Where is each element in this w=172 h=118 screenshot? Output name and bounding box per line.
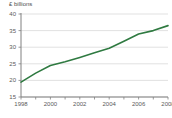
x-tick-label: 2000 (39, 101, 61, 107)
x-tick-label: 2004 (98, 101, 120, 107)
y-tick-label: 35 (2, 28, 16, 34)
y-tick-label: 15 (2, 94, 16, 100)
y-tick-label: 25 (2, 61, 16, 67)
x-tick-label: 2002 (69, 101, 91, 107)
x-tick-label: 2006 (128, 101, 150, 107)
x-tick-label: 2008 (157, 101, 172, 107)
line-chart: £ billions 403530252015 1998200020022004… (0, 0, 172, 118)
x-tick-label: 1998 (10, 101, 32, 107)
gridlines (21, 14, 168, 97)
y-tick-label: 20 (2, 77, 16, 83)
y-tick-label: 30 (2, 44, 16, 50)
data-series-line (21, 26, 168, 82)
y-tick-label: 40 (2, 11, 16, 17)
